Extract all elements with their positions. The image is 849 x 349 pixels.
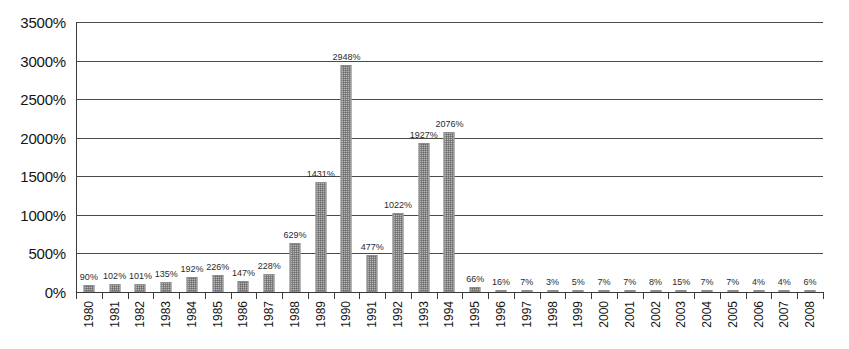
x-tick-slot: 2006: [746, 301, 772, 347]
x-tick-mark: [694, 293, 695, 299]
bar-value-label: 2948%: [332, 53, 360, 62]
bar-value-label: 4%: [752, 278, 765, 287]
bars-layer: 90%102%101%135%192%226%147%228%629%1431%…: [76, 22, 823, 292]
plot-area: 90%102%101%135%192%226%147%228%629%1431%…: [76, 22, 823, 292]
bar-value-label: 1431%: [307, 170, 335, 179]
x-tick-label: 1982: [134, 301, 146, 328]
bar-slot: 1431%: [308, 22, 334, 292]
x-tick-label: 1995: [469, 301, 481, 328]
x-tick-label: 1981: [109, 301, 121, 328]
bar-slot: 7%: [591, 22, 617, 292]
y-tick-label: 3500%: [20, 15, 66, 30]
x-tick-mark: [76, 293, 77, 299]
bar[interactable]: [392, 213, 403, 292]
bar-value-label: 228%: [258, 262, 281, 271]
x-tick-label: 1993: [418, 301, 430, 328]
x-tick-slot: 1981: [102, 301, 128, 347]
x-tick-slot: 1990: [334, 301, 360, 347]
x-tick-slot: 1992: [385, 301, 411, 347]
x-tick-slot: 1995: [462, 301, 488, 347]
bar-value-label: 16%: [492, 278, 510, 287]
bar-value-label: 101%: [129, 272, 152, 281]
x-tick-label: 1992: [392, 301, 404, 328]
bar[interactable]: [418, 143, 429, 292]
bar-value-label: 7%: [726, 278, 739, 287]
x-tick-mark: [565, 293, 566, 299]
x-tick-mark: [591, 293, 592, 299]
x-tick-mark: [231, 293, 232, 299]
bar-value-label: 135%: [155, 270, 178, 279]
bar[interactable]: [264, 274, 275, 292]
bar-slot: 66%: [462, 22, 488, 292]
bar[interactable]: [444, 132, 455, 292]
x-tick-mark: [385, 293, 386, 299]
x-tick-mark: [771, 293, 772, 299]
bar-value-label: 4%: [778, 278, 791, 287]
bar-slot: 4%: [746, 22, 772, 292]
bar-chart: 0%500%1000%1500%2000%2500%3000%3500% 90%…: [0, 0, 849, 349]
x-axis: 1980198119821983198419851986198719881989…: [76, 293, 824, 349]
x-tick-slot: 2003: [668, 301, 694, 347]
bar-slot: 135%: [153, 22, 179, 292]
bar[interactable]: [161, 282, 172, 292]
x-tick-mark: [102, 293, 103, 299]
bar-slot: 7%: [617, 22, 643, 292]
bar-value-label: 90%: [80, 273, 98, 282]
x-tick-mark: [617, 293, 618, 299]
bar-value-label: 7%: [623, 278, 636, 287]
x-tick-mark: [437, 293, 438, 299]
bar[interactable]: [212, 275, 223, 292]
bar-slot: 226%: [205, 22, 231, 292]
bar[interactable]: [186, 277, 197, 292]
bar-value-label: 1927%: [410, 131, 438, 140]
bar-slot: 3%: [540, 22, 566, 292]
x-tick-slot: 2008: [797, 301, 823, 347]
bar-slot: 5%: [565, 22, 591, 292]
bar-slot: 6%: [797, 22, 823, 292]
x-tick-label: 1991: [366, 301, 378, 328]
bar-slot: 7%: [720, 22, 746, 292]
x-tick-label: 2006: [753, 301, 765, 328]
x-tick-slot: 2004: [694, 301, 720, 347]
x-tick-label: 1998: [547, 301, 559, 328]
bar-value-label: 3%: [546, 278, 559, 287]
y-axis: 0%500%1000%1500%2000%2500%3000%3500%: [0, 0, 72, 295]
bar[interactable]: [289, 243, 300, 292]
bar[interactable]: [367, 255, 378, 292]
x-tick-slot: 1983: [153, 301, 179, 347]
x-tick-label: 2008: [804, 301, 816, 328]
bar-value-label: 629%: [283, 231, 306, 240]
x-tick-label: 1983: [160, 301, 172, 328]
bar-value-label: 66%: [466, 275, 484, 284]
x-tick-slot: 1996: [488, 301, 514, 347]
x-tick-slot: 2001: [617, 301, 643, 347]
bar[interactable]: [315, 182, 326, 292]
bar-slot: 147%: [231, 22, 257, 292]
x-tick-mark: [411, 293, 412, 299]
bar[interactable]: [109, 284, 120, 292]
bar-value-label: 7%: [598, 278, 611, 287]
x-tick-slot: 2007: [771, 301, 797, 347]
bar[interactable]: [238, 281, 249, 292]
x-tick-mark: [153, 293, 154, 299]
x-tick-slot: 1988: [282, 301, 308, 347]
bar[interactable]: [83, 285, 94, 292]
x-tick-label: 1997: [521, 301, 533, 328]
bar[interactable]: [135, 284, 146, 292]
x-tick-label: 1994: [443, 301, 455, 328]
x-tick-mark: [179, 293, 180, 299]
bar[interactable]: [341, 65, 352, 292]
x-tick-mark: [514, 293, 515, 299]
x-tick-slot: 2002: [643, 301, 669, 347]
bar-value-label: 147%: [232, 269, 255, 278]
bar-slot: 101%: [128, 22, 154, 292]
x-tick-slot: 1982: [128, 301, 154, 347]
bar-value-label: 477%: [361, 243, 384, 252]
x-tick-mark: [823, 293, 824, 299]
y-tick-label: 1500%: [20, 169, 66, 184]
y-tick-label: 2500%: [20, 92, 66, 107]
bar-value-label: 7%: [701, 278, 714, 287]
bar-slot: 7%: [514, 22, 540, 292]
bar-slot: 15%: [668, 22, 694, 292]
bar-value-label: 8%: [649, 278, 662, 287]
